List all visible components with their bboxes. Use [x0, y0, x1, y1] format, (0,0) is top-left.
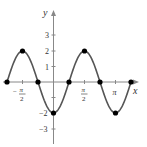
- data-point: [20, 48, 25, 53]
- y-tick-label-1: 1: [45, 63, 49, 72]
- y-tick-label-neg2: −2: [39, 109, 48, 118]
- data-point: [113, 110, 118, 115]
- svg-text:2: 2: [82, 95, 86, 103]
- x-axis-label: x: [132, 85, 138, 96]
- data-point: [82, 48, 87, 53]
- svg-text:2: 2: [20, 95, 24, 103]
- data-point: [51, 110, 56, 115]
- data-point: [4, 79, 9, 84]
- data-point: [128, 79, 133, 84]
- data-point: [97, 79, 102, 84]
- y-axis-label: y: [42, 7, 48, 18]
- x-tick-label-pi-over-2: π 2: [81, 86, 88, 103]
- y-tick-label-3: 3: [45, 31, 49, 40]
- svg-text:π: π: [82, 86, 86, 94]
- y-tick-label-2: 2: [45, 47, 49, 56]
- data-point: [66, 79, 71, 84]
- svg-text:−: −: [13, 88, 17, 96]
- data-point: [35, 79, 40, 84]
- function-graph: y x 3 2 1 −2 −3 − π 2 π 2 π: [0, 0, 147, 147]
- svg-text:π: π: [20, 86, 24, 94]
- x-axis-arrow-icon: [133, 80, 139, 85]
- x-tick-label-neg-pi-over-2: − π 2: [13, 86, 26, 103]
- y-tick-label-neg3: −3: [39, 125, 48, 134]
- y-axis-arrow-icon: [51, 10, 56, 16]
- x-tick-label-pi: π: [113, 88, 118, 97]
